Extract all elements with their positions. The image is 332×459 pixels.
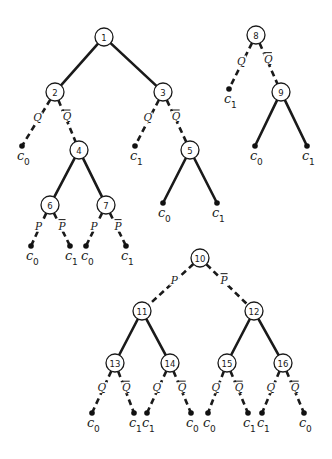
tree-edge: Q: [229, 43, 252, 89]
node-label: 14: [165, 359, 176, 369]
leaf-subscript: 1: [137, 157, 143, 167]
tree-edge: [258, 319, 278, 355]
tree-node-8: 8: [247, 26, 265, 44]
tree-edge: P: [149, 264, 194, 305]
leaf-terminal: c1: [224, 86, 237, 110]
tree-edge: P: [86, 213, 102, 246]
edge-label-q: Q: [267, 381, 276, 394]
edge-label-q-bar: Q: [235, 381, 244, 394]
tree-edge: [194, 158, 217, 203]
tree-edge: Q: [286, 371, 304, 413]
edge-label-q-bar: Q: [172, 110, 181, 123]
tree-edge: Q: [22, 100, 50, 146]
tree-edge: [163, 158, 186, 203]
leaf-terminal: c1: [257, 410, 270, 434]
node-label: 15: [222, 359, 233, 369]
tree-edge: [111, 43, 157, 86]
leaf-subscript: 0: [210, 424, 216, 434]
leaf-terminal: c1: [243, 410, 256, 434]
leaf-subscript: 0: [24, 157, 30, 167]
node-label: 8: [253, 31, 258, 41]
edge-label-q-bar: Q: [122, 381, 131, 394]
node-label: 3: [160, 88, 165, 98]
tree-node-10: 10: [191, 249, 209, 267]
leaf-subscript: 1: [72, 257, 78, 267]
tree-edge: [54, 158, 75, 197]
leaf-terminal: c0: [26, 243, 39, 267]
edge-label-p: P: [34, 220, 43, 232]
node-label: 12: [249, 307, 260, 317]
tree-node-5: 5: [181, 141, 199, 159]
node-label: 11: [137, 307, 148, 317]
leaf-subscript: 0: [88, 257, 94, 267]
tree-edge: Q: [230, 371, 248, 413]
nodes-layer: 12345678910111213141516: [41, 26, 292, 372]
edge-label-p-bar: P: [114, 220, 123, 232]
edge-label-p: P: [89, 220, 98, 232]
leaf-subscript: 1: [149, 424, 155, 434]
leaf-subscript: 1: [309, 157, 315, 167]
tree-edge: P: [54, 213, 70, 246]
leaf-subscript: 0: [94, 424, 100, 434]
leaf-subscript: 1: [231, 100, 237, 110]
edge-label-q: Q: [98, 381, 107, 394]
tree-node-14: 14: [161, 354, 179, 372]
tree-node-2: 2: [46, 83, 64, 101]
tree-edge: [255, 100, 277, 146]
leaf-subscript: 0: [33, 257, 39, 267]
tree-node-11: 11: [133, 302, 151, 320]
edge-label-q-bar: Q: [63, 110, 72, 123]
leaf-terminal: c0: [250, 143, 263, 167]
leaf-terminal: c1: [130, 143, 143, 167]
tree-node-7: 7: [97, 196, 115, 214]
edge-label-p-bar: P: [58, 220, 67, 232]
leaf-terminal: c1: [142, 410, 155, 434]
tree-node-12: 12: [245, 302, 263, 320]
tree-node-4: 4: [70, 141, 88, 159]
edge-label-q-bar: Q: [264, 53, 273, 66]
node-label: 10: [195, 254, 206, 264]
node-label: 5: [187, 146, 192, 156]
node-label: 13: [110, 359, 121, 369]
tree-edge: P: [110, 213, 126, 246]
tree-diagram-canvas: QQQQPPPPQQPPQQQQQQQQ 1234567891011121314…: [0, 0, 332, 459]
edge-label-q: Q: [143, 111, 152, 124]
tree-node-16: 16: [274, 354, 292, 372]
node-label: 4: [76, 146, 81, 156]
leaf-subscript: 0: [306, 424, 312, 434]
leaf-terminal: c0: [87, 410, 100, 434]
edge-label-q-bar: Q: [291, 381, 300, 394]
tree-edge: Q: [92, 371, 111, 413]
leaf-terminal: c0: [203, 410, 216, 434]
leaf-terminal: c1: [65, 243, 78, 267]
tree-node-6: 6: [41, 196, 59, 214]
node-label: 9: [278, 88, 283, 98]
tree-edge: Q: [173, 371, 191, 413]
leaf-terminal: c0: [299, 410, 312, 434]
tree-node-13: 13: [106, 354, 124, 372]
edge-label-p-bar: P: [220, 274, 229, 286]
node-label: 7: [103, 201, 108, 211]
tree-edge: Q: [58, 100, 75, 141]
tree-edge: [146, 319, 165, 355]
edge-label-q-bar: Q: [178, 381, 187, 394]
tree-edge: P: [31, 213, 46, 246]
tree-edge: Q: [262, 371, 280, 413]
tree-edge: Q: [208, 371, 224, 413]
leaf-subscript: 1: [264, 424, 270, 434]
tree-edge: Q: [135, 100, 159, 146]
leaf-subscript: 1: [219, 214, 225, 224]
leaf-terminal: c0: [158, 200, 171, 224]
tree-edge: P: [206, 264, 247, 304]
tree-edge: [231, 319, 250, 355]
leaf-terminal: c1: [212, 200, 225, 224]
leaf-subscript: 0: [165, 214, 171, 224]
tree-edge: Q: [118, 371, 134, 413]
node-label: 16: [278, 359, 289, 369]
edge-label-q: Q: [237, 55, 246, 68]
edge-label-q: Q: [153, 381, 162, 394]
node-label: 6: [47, 201, 52, 211]
leaf-terminal: c1: [129, 410, 142, 434]
leaf-terminal: c0: [186, 410, 199, 434]
tree-edge: Q: [147, 371, 166, 413]
